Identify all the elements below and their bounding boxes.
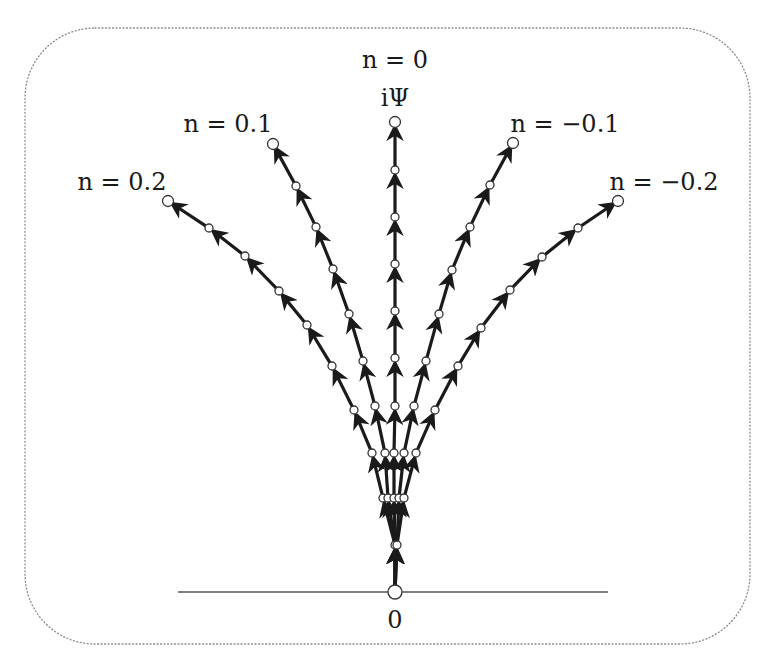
- path-nminus0.2: [395, 204, 614, 588]
- path-node: [359, 357, 367, 365]
- arrow-segment: [492, 147, 511, 181]
- origin-node: [388, 585, 402, 599]
- arrow-segment: [427, 319, 438, 357]
- label-n-minus-0.1: n = −0.1: [510, 110, 619, 138]
- endpoint-node: [508, 138, 519, 149]
- arrow-segment: [545, 231, 574, 254]
- path-node: [391, 307, 399, 315]
- path-node: [275, 287, 283, 295]
- arrow-segment: [460, 332, 478, 362]
- path-nminus0.1: [395, 147, 510, 588]
- arrow-segment: [373, 458, 382, 494]
- endpoint-node: [613, 196, 624, 207]
- arrow-segment: [418, 415, 433, 450]
- arrow-segment: [405, 411, 413, 449]
- arrow-segment: [172, 204, 205, 226]
- arrow-segment: [282, 295, 304, 322]
- label-n-0.2: n = 0.2: [78, 168, 167, 196]
- arrow-segment: [513, 261, 539, 288]
- arrow-segment: [248, 260, 276, 289]
- arrow-segment: [415, 366, 425, 402]
- path-node: [368, 449, 376, 457]
- path-node: [292, 182, 300, 190]
- label-n-0.1: n = 0.1: [184, 110, 273, 138]
- arrow-segment: [213, 231, 242, 253]
- path-node: [454, 362, 462, 370]
- path-node: [400, 449, 408, 457]
- arrow-segment: [437, 370, 456, 406]
- path-node: [435, 310, 443, 318]
- path-node: [329, 265, 337, 273]
- path-node: [381, 449, 389, 457]
- arrow-segment: [454, 232, 469, 267]
- path-node: [422, 357, 430, 365]
- path-node: [391, 166, 399, 174]
- path-node: [486, 181, 494, 189]
- path-node: [371, 402, 379, 410]
- arrow-segment: [395, 550, 397, 588]
- path-node: [412, 449, 420, 457]
- arrow-segment: [364, 366, 374, 402]
- endpoint-node: [268, 139, 279, 150]
- path-node: [477, 324, 485, 332]
- label-n-minus-0.2: n = −0.2: [609, 168, 718, 196]
- path-node: [350, 406, 358, 414]
- path-node: [205, 224, 213, 232]
- path-node: [328, 362, 336, 370]
- path-node: [391, 354, 399, 362]
- path-n0.2: [172, 204, 395, 588]
- arrow-segment: [318, 232, 332, 266]
- label-i-psi: iΨ: [381, 84, 410, 112]
- path-node: [303, 321, 311, 329]
- path-node: [538, 253, 546, 261]
- arrow-segment: [394, 411, 395, 449]
- path-node: [506, 286, 514, 294]
- arrow-segment: [335, 274, 348, 311]
- arrow-segment: [483, 294, 507, 325]
- label-n-0: n = 0: [362, 46, 428, 74]
- path-node: [391, 402, 399, 410]
- path-node: [312, 223, 320, 231]
- arrow-segment: [399, 458, 403, 494]
- path-node: [431, 406, 439, 414]
- dotted-frame: [25, 28, 750, 644]
- path-node: [466, 223, 474, 231]
- endpoint-node: [163, 196, 174, 207]
- arrow-segment: [334, 370, 352, 406]
- arrow-segment: [298, 190, 314, 223]
- path-node: [410, 402, 418, 410]
- arrow-segment: [350, 319, 361, 357]
- arrow-segment: [275, 148, 294, 182]
- path-node: [390, 449, 398, 457]
- arrow-segment: [394, 503, 395, 541]
- endpoint-node: [390, 117, 401, 128]
- diagram-canvas: n = 0.2 n = 0.1 n = 0 n = −0.1 n = −0.2 …: [0, 0, 770, 660]
- arrow-segment: [310, 329, 330, 362]
- arrow-segment: [472, 190, 488, 224]
- path-node: [345, 310, 353, 318]
- arrow-segment: [440, 275, 450, 310]
- path-node: [400, 494, 408, 502]
- path-node: [393, 541, 401, 549]
- arrow-segment: [385, 458, 387, 494]
- path-node: [391, 213, 399, 221]
- label-origin: 0: [387, 606, 402, 634]
- arrow-segment: [356, 415, 371, 450]
- arrow-segment: [581, 204, 614, 226]
- path-node: [574, 224, 582, 232]
- path-node: [448, 266, 456, 274]
- path-node: [391, 260, 399, 268]
- path-node: [241, 252, 249, 260]
- arrow-segment: [376, 411, 384, 449]
- arrow-segment: [405, 458, 415, 494]
